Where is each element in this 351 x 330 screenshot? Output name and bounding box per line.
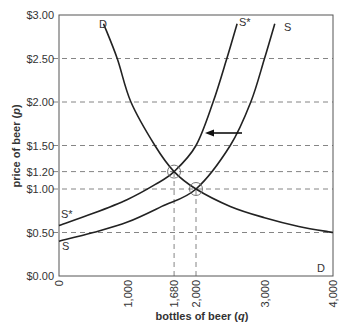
y-tick-label: $0.00 — [26, 270, 54, 282]
y-tick-label: $2.50 — [26, 53, 54, 65]
gridlines — [53, 59, 333, 233]
y-axis-ticks: $0.00$0.50$1.00$1.20$1.50$2.00$2.50$3.00 — [26, 9, 54, 282]
label-d-top: D — [99, 18, 107, 30]
x-tick-label: 3,000 — [259, 280, 271, 308]
label-s-top: S — [284, 21, 291, 33]
label-s-star-bottom: S* — [61, 208, 73, 220]
x-axis-ticks: 01,0001,6802,0003,0004,000 — [53, 280, 339, 308]
y-tick-label: $1.50 — [26, 140, 54, 152]
y-axis-title: price of beer (p) — [10, 104, 22, 187]
supply-curve-s — [59, 24, 275, 242]
label-s-bottom: S — [62, 240, 69, 252]
y-tick-label: $1.20 — [26, 166, 54, 178]
x-tick-label: 4,000 — [327, 280, 339, 308]
y-tick-label: $1.00 — [26, 183, 54, 195]
x-tick-label: 1,680 — [168, 280, 180, 308]
y-tick-label: $3.00 — [26, 9, 54, 21]
label-d-bottom: D — [317, 262, 325, 274]
x-tick-label: 1,000 — [122, 280, 134, 308]
y-tick-label: $2.00 — [26, 96, 54, 108]
y-tick-label: $0.50 — [26, 227, 54, 239]
x-tick-label: 0 — [53, 280, 65, 286]
supply-demand-chart: $0.00$0.50$1.00$1.20$1.50$2.00$2.50$3.00… — [0, 0, 351, 330]
x-tick-label: 2,000 — [190, 280, 202, 308]
supply-curve-s-star — [59, 24, 237, 226]
label-s-star-top: S* — [239, 16, 251, 28]
x-axis-title: bottles of beer (q) — [156, 310, 249, 322]
demand-curve-d — [104, 24, 333, 233]
